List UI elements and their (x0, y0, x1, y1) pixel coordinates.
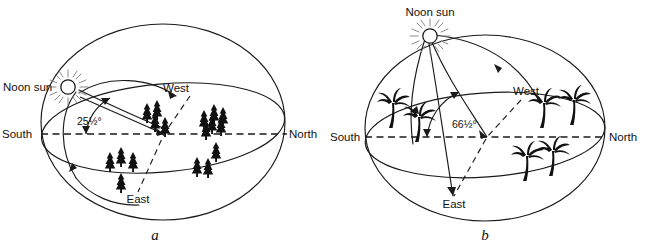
sphere-outline-b (365, 35, 605, 221)
noon-sun-label-a: Noon sun (3, 81, 52, 93)
west-label-b: West (513, 85, 540, 97)
east-label-a: East (126, 193, 150, 205)
south-label-b: South (330, 131, 360, 143)
north-label-a: North (289, 128, 317, 140)
celestial-arc-east-b (428, 38, 453, 196)
sun-icon (48, 70, 88, 105)
noon-sun-label-b: Noon sun (405, 6, 454, 18)
panel-a: Noon sun South North West East 25½° a (0, 0, 330, 252)
angle-label-b: 66½° (452, 118, 477, 130)
north-label-b: North (609, 131, 637, 143)
east-label-b: East (442, 198, 466, 210)
west-east-meridian-b (454, 100, 521, 196)
panel-letter-b: b (481, 227, 489, 243)
panel-b: Noon sun South North West East 66½° b (330, 0, 653, 252)
celestial-sphere-figure: Noon sun South North West East 25½° a (0, 0, 653, 252)
angle-label-a: 25½° (77, 115, 102, 127)
sun-path-arrowhead-b (494, 64, 502, 73)
panel-letter-a: a (151, 227, 159, 243)
conifer-tree-group-a (105, 100, 228, 193)
angle-arc-arrowhead-bottom-a (82, 126, 90, 134)
angle-arc-arrowhead-bottom-b (423, 129, 431, 137)
south-label-a: South (2, 128, 32, 140)
celestial-arc-left-b (411, 39, 425, 144)
sun-icon (410, 19, 450, 54)
west-label-a: West (163, 82, 190, 94)
